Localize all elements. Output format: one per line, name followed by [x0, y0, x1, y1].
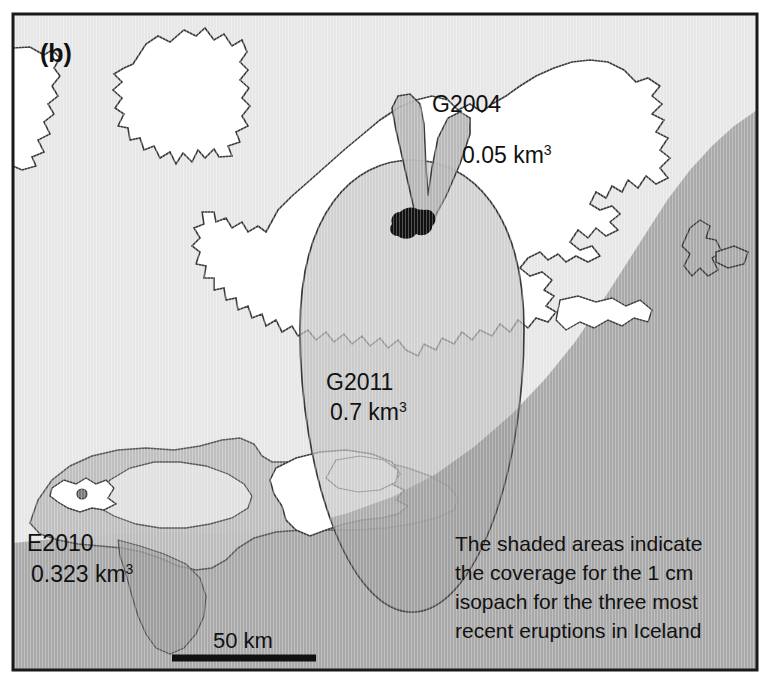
- eruption-volume-g2004-value: 0.05 km: [462, 142, 544, 168]
- eruption-volume-e2010: 0.323 km3: [31, 561, 134, 587]
- scale-bar-label: 50 km: [213, 628, 273, 653]
- eruption-volume-e2010-value: 0.323 km: [31, 561, 126, 587]
- eruption-volume-g2011-exponent: 3: [399, 399, 407, 415]
- caption-line-1: The shaded areas indicate: [455, 532, 703, 555]
- caption-line-4: recent eruptions in Iceland: [455, 619, 701, 642]
- eruption-volume-g2004-exponent: 3: [544, 142, 552, 158]
- eruption-label-g2011: G2011: [326, 369, 393, 395]
- iceland-isopach-map: (b) G2004 0.05 km3 G2011 0.7 km3 E2010 0…: [0, 0, 770, 688]
- figure-panel-b: (b) G2004 0.05 km3 G2011 0.7 km3 E2010 0…: [0, 0, 770, 688]
- panel-letter: (b): [40, 39, 72, 67]
- eruption-volume-g2011-value: 0.7 km: [330, 399, 399, 425]
- caption-line-2: the coverage for the 1 cm: [455, 561, 693, 584]
- eruption-volume-g2011: 0.7 km3: [330, 399, 407, 425]
- caption-line-3: isopach for the three most: [455, 590, 698, 613]
- eruption-volume-g2004: 0.05 km3: [462, 142, 552, 168]
- eruption-label-e2010: E2010: [27, 530, 94, 556]
- eruption-label-g2004: G2004: [432, 91, 501, 117]
- eruption-volume-e2010-exponent: 3: [126, 561, 134, 577]
